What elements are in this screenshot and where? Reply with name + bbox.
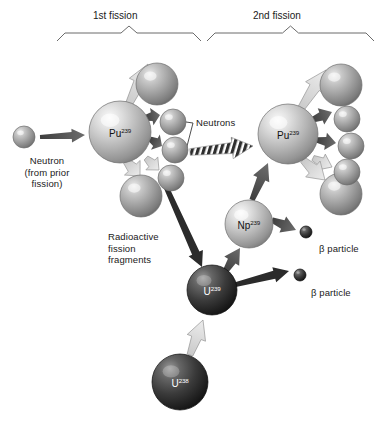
diagram-canvas: [0, 0, 379, 421]
nuclide-label-pu239-first: Pu239: [109, 127, 131, 139]
arrow-hatched-to-pu2: [189, 135, 254, 162]
beta-particle-sphere-1: [300, 226, 312, 238]
neutron-source-label: Neutron (from prior fission): [6, 155, 88, 190]
arrow-u238-to-u239: [181, 317, 212, 359]
nuclide-label-u239: U239: [204, 285, 221, 297]
brace-label-2nd-fission: 2nd fission: [253, 10, 301, 21]
nuclide-mass-number: 239: [289, 129, 299, 136]
nuclide-label-np239: Np239: [238, 219, 261, 231]
nuclide-symbol: Np: [238, 220, 251, 231]
arrow-neutron-to-u238: [156, 177, 209, 270]
nuclide-label-u238: U238: [172, 377, 189, 389]
fission-stage-braces: [57, 26, 374, 41]
neutron-left-2: [162, 137, 188, 163]
nuclide-symbol: Pu: [109, 128, 121, 139]
incoming-neutron-sphere: [13, 126, 35, 148]
beta-particle-sphere-2: [294, 269, 306, 281]
fission-fragments-label: Radioactive fission fragments: [108, 231, 159, 266]
neutrons-leader-line-1: [186, 122, 193, 123]
nuclide-symbol: U: [172, 378, 179, 389]
nuclide-mass-number: 238: [179, 377, 189, 384]
brace-label-1st-fission: 1st fission: [93, 10, 137, 21]
beta-particle-label-1: β particle: [319, 243, 359, 255]
fission-fragment-left-2: [120, 175, 162, 217]
neutron-left-3: [158, 165, 184, 191]
neutron-right-2: [338, 133, 364, 159]
fission-fragment-right-1: [320, 64, 362, 106]
nuclide-symbol: Pu: [277, 130, 289, 141]
beta-particle-label-2: β particle: [311, 287, 351, 299]
fission-fragment-left-1: [136, 63, 178, 105]
arrow-u239-to-beta2: [232, 263, 291, 292]
brace-1st: [57, 26, 201, 41]
neutron-left-1: [160, 109, 186, 135]
arrow-np-to-pu2: [244, 160, 276, 204]
arrow-pu2-neutron-2: [316, 131, 338, 151]
arrow-neutron-to-pu1: [40, 128, 86, 144]
neutrons-label: Neutrons: [196, 117, 235, 129]
nuclide-mass-number: 239: [250, 219, 260, 226]
brace-2nd: [207, 26, 374, 41]
neutron-right-3: [334, 159, 360, 185]
nuclide-label-pu239-second: Pu239: [277, 129, 299, 141]
nuclide-symbol: U: [204, 286, 211, 297]
neutron-right-1: [334, 106, 360, 132]
nuclide-mass-number: 239: [121, 127, 131, 134]
nuclide-mass-number: 239: [211, 285, 221, 292]
fission-diagram: 1st fission 2nd fission Neutron (from pr…: [0, 0, 379, 421]
